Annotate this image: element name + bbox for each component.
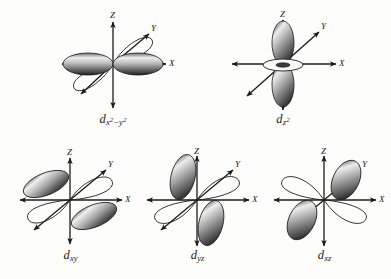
axis-label-x: X [168, 58, 175, 68]
torus-ring-dz2 [263, 59, 303, 71]
caption-sup1: 2 [286, 116, 290, 124]
axis-label-z: Z [321, 148, 327, 156]
orbital-caption-dxy: dxy [8, 248, 133, 263]
axis-label-y: Y [235, 159, 241, 169]
orbital-caption-dz2: dz2 [218, 112, 348, 127]
axis-label-y: Y [151, 23, 157, 33]
axis-label-z: Z [110, 10, 116, 20]
caption-sub1: xz [324, 253, 331, 263]
axis-label-y: Y [108, 159, 114, 169]
caption-sub1: yz [197, 253, 204, 263]
orbital-svg-dxy: Z X Y [8, 148, 133, 256]
orbital-svg-dz2: Z X Y [218, 8, 348, 120]
orbital-caption-dyz: dyz [135, 248, 260, 263]
orbital-svg-dxz: Z X Y [262, 148, 387, 256]
orbital-diagram-dxz: Z X Y dxz [262, 148, 387, 273]
axis-label-x: X [251, 194, 258, 204]
axis-label-z: Z [67, 148, 73, 157]
orbital-diagram-dxy: Z X Y dxy [8, 148, 133, 273]
axis-label-z: Z [194, 148, 200, 156]
axes-dxy [20, 158, 122, 244]
orbital-svg-dx2-y2: Z X Y [48, 8, 178, 120]
axis-label-y: Y [362, 159, 368, 169]
orbital-caption-dx2-y2: dx2−y2 [48, 112, 178, 127]
d-orbital-figure: Z X Y dx2−y2 Z X Y [0, 0, 391, 279]
orbital-diagram-dz2: Z X Y dz2 [218, 8, 348, 136]
axis-label-z: Z [280, 9, 286, 19]
orbital-diagram-dx2-y2: Z X Y dx2−y2 [48, 8, 178, 136]
axis-label-x: X [338, 58, 345, 68]
axis-label-x: X [124, 194, 131, 204]
orbital-caption-dxz: dxz [262, 248, 387, 263]
axis-label-y: Y [321, 21, 327, 31]
orbital-diagram-dyz: Z X Y dyz [135, 148, 260, 273]
axis-label-x: X [378, 194, 385, 204]
caption-sup2: 2 [123, 116, 127, 124]
orbital-svg-dyz: Z X Y [135, 148, 260, 256]
caption-sub1: xy [70, 253, 78, 263]
